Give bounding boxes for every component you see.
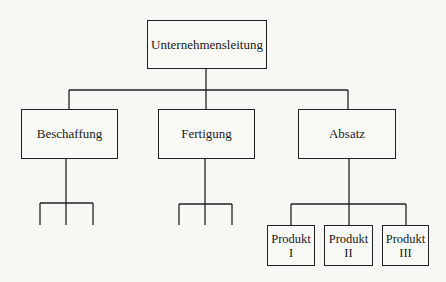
node-label-line2: III xyxy=(399,246,412,260)
node-label-line1: Produkt xyxy=(271,232,311,246)
node-label-line2: II xyxy=(344,246,352,260)
node-label-line1: Produkt xyxy=(329,232,369,246)
node-label-line2: I xyxy=(289,246,293,260)
node-label: Absatz xyxy=(329,127,365,141)
node-label-line1: Produkt xyxy=(386,232,426,246)
node-absatz: Absatz xyxy=(298,109,396,159)
node-unternehmensleitung: Unternehmensleitung xyxy=(147,20,267,69)
node-produkt-1: Produkt I xyxy=(267,225,315,266)
node-produkt-2: Produkt II xyxy=(324,225,373,266)
node-fertigung: Fertigung xyxy=(158,109,255,159)
node-label: Beschaffung xyxy=(37,127,102,141)
node-label: Unternehmensleitung xyxy=(151,38,263,52)
node-produkt-3: Produkt III xyxy=(382,225,429,266)
node-label: Fertigung xyxy=(181,127,232,141)
node-beschaffung: Beschaffung xyxy=(21,109,118,159)
